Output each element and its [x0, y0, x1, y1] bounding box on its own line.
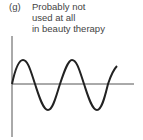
sine-wave: [12, 60, 117, 110]
sine-wave-diagram: [0, 0, 143, 140]
